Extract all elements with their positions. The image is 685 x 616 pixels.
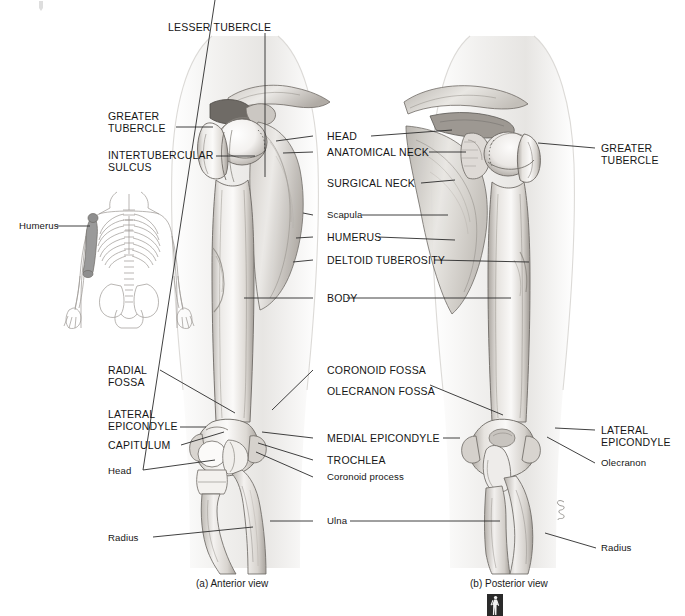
label-lesser-tubercle: LESSER TUBERCLE — [168, 21, 271, 33]
label-radial-fossa: RADIAL FOSSA — [108, 364, 147, 389]
posterior-view-illustration — [400, 30, 600, 575]
label-scapula: Scapula — [327, 209, 362, 221]
label-greater-tubercle-left: GREATER TUBERCLE — [108, 110, 166, 135]
label-trochlea: TROCHLEA — [327, 454, 386, 466]
label-greater-tubercle-right: GREATER TUBERCLE — [601, 142, 659, 167]
page-top-mark — [34, 0, 48, 12]
label-lateral-epicondyle-left: LATERAL EPICONDYLE — [108, 408, 178, 433]
label-intertubercular-sulcus: INTERTUBERCULAR SULCUS — [108, 149, 214, 174]
label-surgical-neck: SURGICAL NECK — [327, 177, 415, 189]
caption-posterior-view: (b) Posterior view — [470, 578, 548, 589]
label-olecranon: Olecranon — [601, 457, 646, 469]
skeleton-orientation-figure — [55, 190, 203, 330]
caption-anterior-view: (a) Anterior view — [196, 578, 268, 589]
label-olecranon-fossa: OLECRANON FOSSA — [327, 385, 435, 397]
label-coronoid-process: Coronoid process — [327, 471, 404, 483]
label-deltoid-tuberosity: DELTOID TUBEROSITY — [327, 254, 445, 266]
body-orientation-icon — [487, 594, 503, 616]
label-medial-epicondyle: MEDIAL EPICONDYLE — [327, 432, 440, 444]
label-capitulum: CAPITULUM — [108, 439, 170, 451]
label-head: HEAD — [327, 130, 357, 142]
label-lateral-epicondyle-right: LATERAL EPICONDYLE — [601, 424, 671, 449]
label-coronoid-fossa: CORONOID FOSSA — [327, 364, 426, 376]
label-humerus: HUMERUS — [327, 231, 382, 243]
label-radius-left: Radius — [108, 532, 138, 544]
label-ulna: Ulna — [327, 515, 347, 527]
figure-canvas: 460 Humerus L — [0, 0, 685, 616]
label-anatomical-neck: ANATOMICAL NECK — [327, 146, 429, 158]
label-body: BODY — [327, 292, 358, 304]
label-radius-right: Radius — [601, 542, 631, 554]
label-head-radius-left: Head — [108, 465, 131, 477]
artist-signature-mark — [557, 501, 564, 520]
label-humerus-orientation: Humerus — [19, 220, 59, 232]
